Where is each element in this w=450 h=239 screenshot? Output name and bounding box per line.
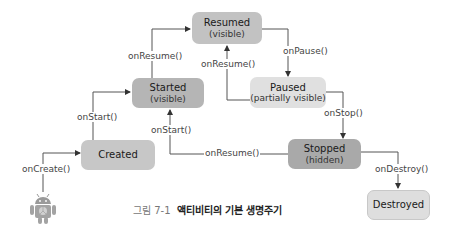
state-subtitle: (visible) [150, 94, 186, 104]
state-title: Paused [270, 82, 306, 94]
label-on-create: onCreate() [21, 164, 71, 174]
state-title: Started [150, 82, 187, 94]
state-subtitle: (visible) [209, 29, 245, 39]
label-on-resume-started: onResume() [127, 51, 183, 61]
state-title: Destroyed [373, 199, 424, 211]
label-on-resume-stopped: onResume() [204, 148, 260, 158]
state-destroyed: Destroyed [367, 190, 430, 220]
label-on-start-created: onStart() [76, 112, 118, 122]
state-title: Stopped [304, 143, 346, 155]
state-subtitle: (partially visible) [250, 93, 325, 103]
label-on-destroy: onDestroy() [374, 164, 429, 174]
label-on-pause: onPause() [282, 46, 329, 56]
caption-number: 그림 7-1 [133, 205, 171, 216]
label-on-resume-paused: onResume() [200, 59, 256, 69]
figure-caption: 그림 7-1액티비티의 기본 생명주기 [133, 202, 282, 217]
state-resumed: Resumed (visible) [192, 12, 262, 44]
android-icon [28, 193, 58, 225]
state-title: Resumed [204, 17, 250, 29]
label-on-start-stopped: onStart() [150, 125, 192, 135]
state-title: Created [98, 149, 138, 161]
label-on-stop: onStop() [323, 108, 364, 118]
state-created: Created [81, 140, 155, 170]
state-subtitle: (hidden) [306, 155, 344, 165]
caption-text: 액티비티의 기본 생명주기 [177, 205, 283, 216]
state-paused: Paused (partially visible) [250, 77, 326, 108]
state-started: Started (visible) [132, 78, 204, 108]
state-stopped: Stopped (hidden) [288, 139, 361, 169]
